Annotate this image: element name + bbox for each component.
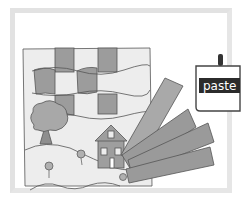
collage-illustration: paste [0, 0, 252, 203]
paste-jar: paste [196, 54, 240, 111]
paste-label: paste [203, 79, 236, 93]
